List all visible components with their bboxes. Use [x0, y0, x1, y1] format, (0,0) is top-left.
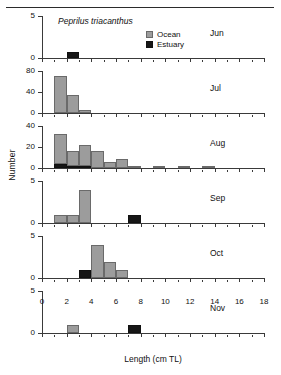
x-tick-minor [128, 225, 129, 228]
x-tick-minor [79, 225, 80, 228]
histogram-bar [128, 215, 140, 223]
x-tick-major [264, 333, 265, 337]
panel-oct: 05Oct [42, 236, 264, 279]
x-tick-major [141, 223, 142, 227]
bar-segment-ocean [91, 245, 103, 278]
x-tick-label: 18 [260, 297, 269, 306]
histogram-bar [91, 151, 103, 168]
x-tick-major [91, 223, 92, 227]
bar-segment-ocean [67, 215, 79, 223]
x-tick-minor [79, 335, 80, 338]
panel-month-label-sep: Sep [210, 193, 225, 203]
histogram-bar [54, 76, 66, 113]
panel-month-label-jul: Jul [210, 83, 221, 93]
x-tick-minor [252, 60, 253, 63]
y-axis-line [42, 16, 43, 59]
x-tick-major [215, 58, 216, 62]
header-rule [6, 7, 274, 8]
y-tick-label: 5 [31, 176, 35, 185]
legend-label-ocean: Ocean [157, 30, 181, 39]
histogram-bar [67, 52, 79, 58]
y-tick-label: 0 [31, 53, 35, 62]
x-tick-minor [104, 225, 105, 228]
histogram-bar [116, 270, 128, 278]
x-tick-minor [252, 280, 253, 283]
x-tick-minor [202, 225, 203, 228]
x-tick-major [141, 278, 142, 282]
x-tick-major [264, 278, 265, 282]
x-tick-minor [79, 170, 80, 173]
x-tick-major [190, 58, 191, 62]
x-tick-minor [227, 60, 228, 63]
y-tick-label: 20 [26, 142, 35, 151]
y-tick-label: 40 [26, 87, 35, 96]
x-tick-minor [227, 115, 228, 118]
y-tick [38, 16, 42, 17]
panel-jul: 04080Jul [42, 71, 264, 114]
x-tick-minor [252, 170, 253, 173]
x-tick-label: 4 [89, 297, 93, 306]
x-tick-major [215, 333, 216, 337]
legend-label-estuary: Estuary [157, 40, 184, 49]
legend: OceanEstuary [146, 30, 184, 50]
x-tick-major [239, 223, 240, 227]
x-tick-major [141, 333, 142, 337]
x-tick-major [91, 58, 92, 62]
histogram-bar [67, 95, 79, 113]
y-tick-label: 0 [31, 218, 35, 227]
x-tick-minor [128, 115, 129, 118]
histogram-bar [79, 270, 91, 278]
x-tick-major [215, 278, 216, 282]
x-tick-label: 8 [138, 297, 142, 306]
x-tick-minor [153, 335, 154, 338]
y-tick-label: 5 [31, 231, 35, 240]
x-tick-major [91, 168, 92, 172]
bar-segment-ocean [67, 325, 79, 333]
x-tick-minor [178, 60, 179, 63]
panel-month-label-aug: Aug [210, 138, 225, 148]
x-tick-label: 12 [186, 297, 195, 306]
x-tick-major [215, 223, 216, 227]
x-tick-minor [153, 170, 154, 173]
x-tick-minor [153, 60, 154, 63]
x-tick-major [67, 333, 68, 337]
x-tick-major [264, 168, 265, 172]
x-tick-major [239, 58, 240, 62]
x-tick-major [215, 168, 216, 172]
figure-root: Number 05JunPeprilus triacanthusOceanEst… [0, 0, 281, 375]
x-tick-minor [79, 115, 80, 118]
x-tick-minor [178, 280, 179, 283]
x-tick-major [264, 223, 265, 227]
x-tick-minor [128, 335, 129, 338]
y-tick-label: 0 [31, 108, 35, 117]
x-tick-minor [202, 115, 203, 118]
bar-segment-ocean [128, 166, 140, 169]
x-tick-minor [252, 335, 253, 338]
x-tick-minor [128, 280, 129, 283]
x-tick-major [67, 168, 68, 172]
plot-area: 02040 [42, 126, 264, 169]
bar-segment-ocean [54, 215, 66, 223]
x-tick-minor [178, 335, 179, 338]
species-name-label: Peprilus triacanthus [58, 16, 133, 26]
x-tick-major [239, 113, 240, 117]
x-tick-minor [202, 60, 203, 63]
x-tick-major [116, 168, 117, 172]
panel-sep: 05Sep [42, 181, 264, 224]
bar-segment-estuary [67, 166, 79, 168]
x-tick-minor [79, 280, 80, 283]
bar-segment-ocean [54, 134, 66, 164]
histogram-bar [67, 151, 79, 168]
bar-segment-ocean [91, 151, 103, 168]
x-tick-minor [178, 115, 179, 118]
x-tick-major [165, 333, 166, 337]
bar-segment-ocean [79, 110, 91, 113]
bar-segment-ocean [116, 159, 128, 168]
x-tick-minor [79, 60, 80, 63]
x-tick-label: 0 [40, 297, 44, 306]
x-tick-label: 6 [114, 297, 118, 306]
bar-segment-ocean [104, 262, 116, 278]
x-tick-minor [54, 60, 55, 63]
x-tick-major [42, 278, 43, 282]
x-tick-label: 2 [64, 297, 68, 306]
